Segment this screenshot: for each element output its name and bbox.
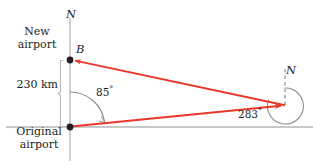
angle-85-degree-symbol: °	[109, 84, 113, 93]
route-leg-return	[75, 61, 285, 106]
label-new-airport: New airport	[9, 26, 65, 52]
label-original-airport: Original airport	[8, 126, 70, 152]
distance-brace	[58, 61, 63, 127]
label-north-top: N	[66, 8, 76, 22]
angle-283-value: 283	[238, 108, 258, 120]
point-b-dot	[67, 57, 74, 64]
bearing-diagram: New airport Original airport 230 km N N …	[0, 0, 315, 164]
label-angle-283: 283°	[238, 107, 262, 120]
angle-283-degree-symbol: °	[258, 106, 262, 115]
angle-85-value: 85	[96, 86, 109, 98]
label-point-b: B	[76, 43, 84, 57]
label-north-right: N	[286, 64, 296, 78]
label-distance-230km: 230 km	[10, 79, 58, 92]
label-angle-85: 85°	[96, 85, 113, 98]
